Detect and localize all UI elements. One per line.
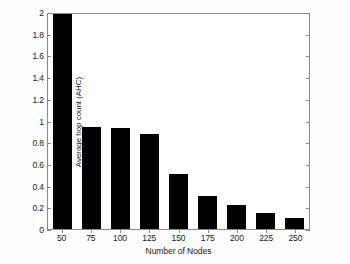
bar-slot (164, 14, 193, 229)
bar[interactable] (82, 127, 102, 229)
x-tick-label: 225 (252, 233, 281, 243)
bar[interactable] (53, 14, 73, 229)
bar[interactable] (256, 213, 276, 229)
plot-area (47, 13, 310, 230)
y-tick-mark-right (306, 230, 310, 231)
y-tick-label: 1.6 (4, 52, 44, 61)
y-tick-label: 1 (4, 117, 44, 126)
bar-slot (193, 14, 222, 229)
y-tick-label: 1.2 (4, 96, 44, 105)
bar-slot (106, 14, 135, 229)
bar[interactable] (227, 205, 247, 229)
bar-slot (251, 14, 280, 229)
bar-slot (135, 14, 164, 229)
y-tick-label: 0.4 (4, 182, 44, 191)
bar[interactable] (140, 134, 160, 229)
x-tick-label: 200 (222, 233, 251, 243)
y-axis-title-wrapper: Average hop count (AHC) (47, 13, 48, 230)
bar-chart-figure: 00.20.40.60.811.21.41.61.82 Average hop … (0, 0, 350, 264)
y-tick-mark-right (306, 78, 310, 79)
bar[interactable] (198, 196, 218, 229)
x-tick-label: 125 (135, 233, 164, 243)
y-tick-mark-right (306, 35, 310, 36)
y-axis-title: Average hop count (AHC) (74, 47, 83, 197)
y-tick-mark-right (306, 100, 310, 101)
y-tick-mark-right (306, 56, 310, 57)
bar-slot (222, 14, 251, 229)
y-tick-label: 2 (4, 9, 44, 18)
x-axis-title: Number of Nodes (47, 246, 310, 256)
y-tick-mark-right (306, 122, 310, 123)
y-tick-mark-right (306, 208, 310, 209)
y-tick-mark (47, 230, 51, 231)
y-tick-label: 1.8 (4, 30, 44, 39)
y-tick-label: 0.6 (4, 161, 44, 170)
bar[interactable] (285, 218, 305, 229)
y-tick-label: 0.8 (4, 139, 44, 148)
y-tick-label: 0 (4, 226, 44, 235)
bar[interactable] (111, 128, 131, 229)
bars-layer (48, 14, 309, 229)
y-tick-mark-right (306, 143, 310, 144)
x-axis-tick-labels: 5075100125150175200225250 (47, 233, 310, 243)
y-tick-label: 0.2 (4, 204, 44, 213)
x-tick-label: 50 (47, 233, 76, 243)
y-tick-mark-right (306, 165, 310, 166)
y-tick-mark-right (306, 13, 310, 14)
x-tick-label: 250 (281, 233, 310, 243)
x-tick-label: 150 (164, 233, 193, 243)
x-tick-label: 75 (76, 233, 105, 243)
x-tick-label: 175 (193, 233, 222, 243)
y-tick-mark-right (306, 187, 310, 188)
bar[interactable] (169, 174, 189, 229)
y-tick-label: 1.4 (4, 74, 44, 83)
x-tick-label: 100 (105, 233, 134, 243)
bar-slot (280, 14, 309, 229)
